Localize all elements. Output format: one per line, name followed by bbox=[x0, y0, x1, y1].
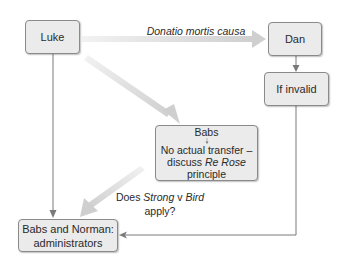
node-luke-label: Luke bbox=[41, 30, 65, 44]
node-administrators-line2: administrators bbox=[33, 236, 102, 250]
node-babs: Babs No actual transfer – discuss Re Ros… bbox=[155, 125, 258, 181]
edge-label-strong-v-bird: Does Strong v Bird apply? bbox=[112, 190, 208, 218]
node-dan: Dan bbox=[268, 22, 322, 56]
node-luke: Luke bbox=[25, 20, 80, 54]
line-dan-to-if-invalid bbox=[293, 56, 300, 72]
edge-label-donatio-mortis-causa: Donatio mortis causa bbox=[126, 24, 266, 38]
node-administrators: Babs and Norman: administrators bbox=[18, 219, 118, 252]
strong-v-bird-mid: v bbox=[174, 191, 185, 203]
babs-line2-post: principle bbox=[187, 168, 226, 180]
node-administrators-line1: Babs and Norman: bbox=[22, 222, 114, 236]
strong-v-bird-case1: Strong bbox=[143, 191, 174, 203]
node-babs-line2: discuss Re Rose principle bbox=[156, 156, 257, 180]
node-if-invalid-label: If invalid bbox=[276, 82, 316, 96]
strong-v-bird-case2: Bird bbox=[185, 191, 204, 203]
babs-line2-case: Re Rose bbox=[205, 156, 246, 168]
node-babs-title: Babs bbox=[195, 126, 219, 138]
line-luke-to-administrators bbox=[50, 54, 57, 218]
babs-line2-pre: discuss bbox=[167, 156, 205, 168]
fat-arrow-luke-to-babs bbox=[84, 55, 180, 124]
strong-v-bird-pre: Does bbox=[116, 191, 143, 203]
strong-v-bird-line2: apply? bbox=[145, 205, 176, 217]
node-if-invalid: If invalid bbox=[264, 72, 329, 106]
node-dan-label: Dan bbox=[285, 32, 305, 46]
node-babs-line1: No actual transfer – bbox=[161, 144, 253, 156]
